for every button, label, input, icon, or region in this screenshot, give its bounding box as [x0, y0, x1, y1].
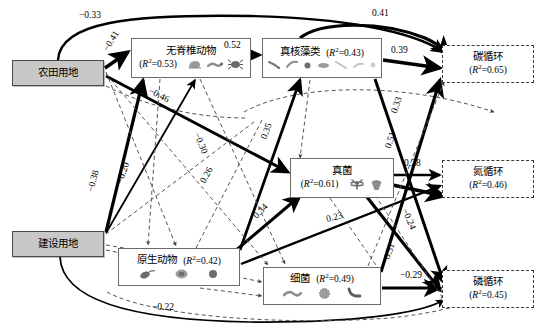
node-protozoa-r2: (R2=0.42) [183, 254, 221, 267]
glyph-group-protozoa [139, 268, 219, 280]
node-phosphorus-r2: (R2=0.45) [469, 288, 507, 301]
edge-protozoa-algae-dashed [244, 90, 494, 112]
node-invertebrates-r2: (R2=0.53) [139, 57, 177, 70]
sem-path-diagram: 农田用地 建设用地 无脊椎动物 (R2=0.53) [0, 0, 543, 334]
node-protozoa[interactable]: 原生动物 (R2=0.42) [118, 248, 240, 286]
ciliate-icon [207, 268, 219, 280]
node-builtup[interactable]: 建设用地 [12, 231, 104, 257]
node-nitrogen-label: 氮循环 [473, 166, 503, 178]
edge-fungi-phosphorus-dashed [330, 198, 378, 268]
diatom-c-icon [335, 60, 348, 70]
edge-builtup-algae [106, 80, 195, 233]
node-phosphorus-cycle[interactable]: 磷循环 (R2=0.45) [442, 270, 534, 308]
amoeba-icon [174, 268, 189, 280]
diatom-d-icon [353, 61, 364, 70]
edge-cropland-bacteria [106, 74, 268, 265]
edge-protozoa-bacteria-dashed [200, 288, 262, 296]
mushroom-icon [370, 178, 383, 191]
green-alga-icon [303, 61, 312, 70]
alga-dot-icon [369, 61, 377, 69]
edge-invertebrates-protozoa [148, 79, 160, 245]
edge-label-invertebrates-algae: 0.52 [224, 40, 241, 50]
alga-cluster-icon [317, 61, 330, 70]
node-invertebrates-label: 无脊椎动物 [166, 45, 216, 57]
node-bacteria-r2: (R2=0.49) [316, 272, 354, 285]
snail-icon [188, 59, 202, 70]
node-cropland-label: 农田用地 [38, 67, 78, 79]
node-algae[interactable]: 真核藻类 (R2=0.43) [262, 38, 382, 78]
edge-label-bacteria-phosphorus: −0.29 [400, 270, 422, 280]
node-phosphorus-label: 磷循环 [473, 276, 503, 288]
glyph-group-invertebrates [188, 59, 243, 70]
glyph-group-bacteria [283, 287, 362, 300]
edge-algae-fungi-dashed [300, 80, 310, 158]
worm-icon [207, 60, 223, 69]
glyph-group-fungi [349, 178, 383, 191]
node-cropland[interactable]: 农田用地 [12, 60, 104, 86]
node-fungi[interactable]: 真菌 (R2=0.61) [290, 158, 394, 198]
node-protozoa-label: 原生动物 [137, 254, 177, 266]
node-fungi-r2: (R2=0.61) [301, 177, 339, 190]
edge-label-fungi-nitrogen: 0.28 [404, 158, 421, 168]
node-carbon-r2: (R2=0.65) [469, 63, 507, 76]
node-nitrogen-r2: (R2=0.46) [469, 178, 507, 191]
edge-label-algae-carbon: 0.39 [391, 45, 408, 55]
edge-builtup-invertebrates [106, 80, 143, 232]
edge-label-algae-carbon-arc: 0.41 [372, 8, 389, 18]
glyph-group-algae [268, 60, 377, 70]
node-bacteria[interactable]: 细菌 (R2=0.49) [263, 267, 381, 305]
vibrio-icon [347, 287, 362, 299]
diatom-b-icon [286, 60, 298, 70]
node-bacteria-label: 细菌 [290, 273, 310, 285]
node-algae-r2: (R2=0.43) [326, 46, 364, 59]
coccus-colony-icon [318, 287, 331, 300]
edge-algae-carbon [383, 60, 440, 68]
mite-icon [228, 59, 243, 70]
node-carbon-label: 碳循环 [473, 51, 503, 63]
flagellate-icon [139, 269, 156, 280]
edge-label-cropland-carbon: −0.33 [79, 10, 101, 20]
node-carbon-cycle[interactable]: 碳循环 (R2=0.65) [442, 45, 534, 83]
node-fungi-label: 真菌 [332, 165, 352, 177]
bacillus-icon [283, 289, 302, 298]
node-algae-label: 真核藻类 [280, 46, 320, 58]
diatom-a-icon [268, 60, 281, 70]
edge-cropland-invertebrates [105, 52, 128, 68]
node-builtup-label: 建设用地 [38, 238, 78, 250]
mycelium-icon [349, 178, 365, 190]
edge-label-builtup-phosphorus: −0.22 [152, 302, 174, 312]
node-nitrogen-cycle[interactable]: 氮循环 (R2=0.46) [442, 160, 534, 198]
